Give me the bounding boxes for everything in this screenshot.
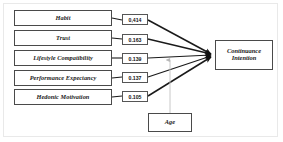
diagram-canvas: Habit Trust Lifestyle Compatibility Perf… <box>0 0 283 142</box>
predictor-label: Lifestyle Compatibility <box>33 55 93 62</box>
outcome-label-line-2: Intention <box>232 55 257 62</box>
outcome-node-continuance-intention[interactable]: Continuance Intention <box>215 40 273 70</box>
predictor-node-lifestyle-compatibility[interactable]: Lifestyle Compatibility <box>14 50 112 66</box>
coefficient-label-lifestyle-compatibility: 0.139 <box>122 53 148 64</box>
coefficient-label-performance-expectancy: 0.137 <box>122 72 148 83</box>
moderator-node-age[interactable]: Age <box>148 113 192 132</box>
predictor-label: Performance Expectancy <box>30 75 97 82</box>
predictor-node-trust[interactable]: Trust <box>14 30 112 46</box>
coefficient-label-habit: 0,414 <box>122 14 148 25</box>
predictor-node-performance-expectancy[interactable]: Performance Expectancy <box>14 70 112 86</box>
predictor-label: Hedonic Motivation <box>37 94 90 101</box>
coefficient-label-hedonic-motivation: 0.105 <box>122 91 148 102</box>
predictor-label: Habit <box>56 15 71 22</box>
predictor-node-habit[interactable]: Habit <box>14 10 112 26</box>
moderator-label: Age <box>165 119 175 126</box>
predictor-node-hedonic-motivation[interactable]: Hedonic Motivation <box>14 89 112 105</box>
coefficient-label-trust: 0.163 <box>122 34 148 45</box>
predictor-label: Trust <box>56 35 70 42</box>
